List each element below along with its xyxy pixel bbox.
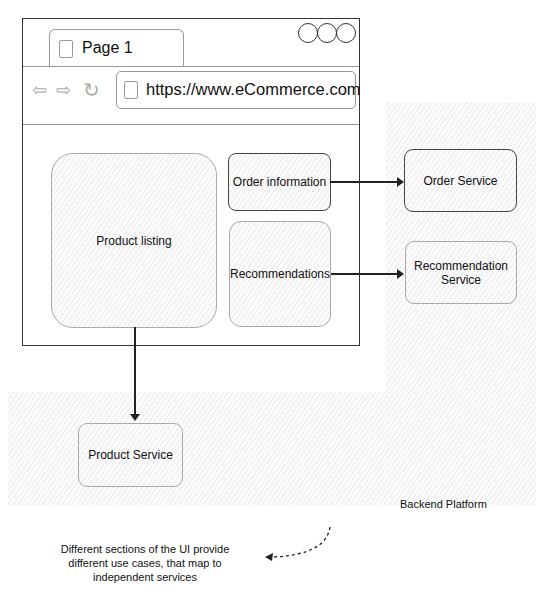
back-arrow-icon[interactable]: ⇦	[32, 79, 47, 101]
recommendation-service-label-2: Service	[441, 273, 481, 287]
product-listing-section: Product listing	[51, 153, 217, 328]
page-icon	[124, 81, 138, 99]
product-listing-label: Product listing	[96, 234, 171, 248]
window-control-circle-icon[interactable]	[298, 23, 318, 43]
annotation-line: independent services	[60, 570, 230, 584]
order-information-section: Order information	[228, 153, 331, 211]
product-service-label: Product Service	[88, 448, 173, 462]
order-connector	[330, 181, 401, 183]
browser-window: Page 1 ⇦ ⇨ ↻ https://www.eCommerce.com P…	[22, 18, 360, 346]
order-information-label: Order information	[233, 175, 326, 189]
window-control-circle-icon[interactable]	[336, 23, 356, 43]
recommendation-service-label: Recommendation	[414, 259, 508, 273]
annotation-line: different use cases, that map to	[60, 556, 230, 570]
order-service-box: Order Service	[404, 149, 517, 212]
recommendation-service-box: Recommendation Service	[405, 241, 517, 304]
recommendation-connector	[331, 273, 401, 275]
annotation-line: Different sections of the UI provide	[60, 542, 230, 556]
backend-platform-label: Backend Platform	[400, 498, 487, 510]
recommendations-label: Recommendations	[230, 267, 330, 281]
tab-bar-divider	[23, 66, 359, 67]
page-icon	[59, 40, 73, 58]
product-connector	[134, 327, 136, 416]
arrow-head-icon	[397, 177, 404, 187]
annotation-text: Different sections of the UI provide dif…	[60, 542, 230, 584]
header-divider	[23, 124, 359, 125]
arrow-head-icon	[130, 414, 140, 421]
refresh-icon[interactable]: ↻	[83, 78, 100, 102]
recommendations-section: Recommendations	[229, 221, 331, 327]
arrow-head-icon	[397, 269, 404, 279]
url-text: https://www.eCommerce.com	[146, 80, 361, 99]
forward-arrow-icon[interactable]: ⇨	[56, 79, 71, 101]
product-service-box: Product Service	[78, 423, 183, 487]
window-controls	[299, 23, 356, 43]
browser-tab[interactable]: Page 1	[49, 29, 184, 67]
tab-label: Page 1	[82, 39, 133, 57]
url-bar[interactable]: https://www.eCommerce.com	[116, 71, 356, 109]
order-service-label: Order Service	[423, 174, 497, 188]
dashed-curved-arrow-icon	[260, 525, 340, 565]
window-control-circle-icon[interactable]	[317, 23, 337, 43]
